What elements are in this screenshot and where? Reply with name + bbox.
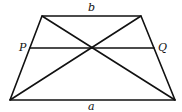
trapezoid-outline (10, 16, 175, 100)
label-q: Q (158, 42, 167, 53)
diagonal-top-left-to-bottom-right (42, 16, 175, 100)
label-b: b (88, 2, 95, 13)
label-p: P (19, 42, 26, 53)
trapezoid-diagram (0, 0, 182, 112)
label-a: a (88, 101, 95, 112)
diagonal-top-right-to-bottom-left (10, 16, 141, 100)
